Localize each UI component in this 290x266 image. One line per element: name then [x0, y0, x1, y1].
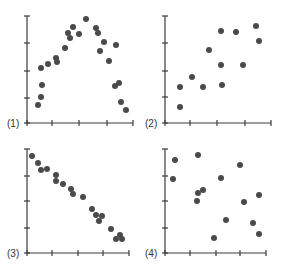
data-point	[60, 181, 66, 187]
panel-label: (3)	[7, 248, 19, 259]
data-point	[62, 45, 68, 51]
data-point	[97, 48, 103, 54]
data-point	[54, 59, 60, 65]
data-point	[250, 220, 256, 226]
data-point	[119, 236, 125, 242]
data-point	[108, 226, 114, 232]
scatter-panel-4: (4)	[145, 149, 266, 259]
data-point	[218, 28, 224, 34]
data-point	[223, 217, 229, 223]
data-point	[113, 42, 119, 48]
data-point	[256, 231, 262, 237]
data-point	[67, 35, 73, 41]
data-point	[44, 166, 50, 172]
data-point	[116, 80, 122, 86]
data-point	[241, 199, 247, 205]
data-point	[177, 104, 183, 110]
data-point	[106, 58, 112, 64]
data-point	[189, 74, 195, 80]
data-point	[172, 157, 178, 163]
scatter-plot-grid: (1) (2) (3) (4)	[0, 0, 290, 266]
data-point	[70, 24, 76, 30]
data-point	[80, 194, 86, 200]
data-point	[76, 31, 82, 37]
scatter-panel-3: (3)	[7, 149, 129, 259]
data-point	[170, 176, 176, 182]
data-point	[123, 107, 129, 113]
data-point	[70, 191, 76, 197]
scatter-panel-2: (2)	[145, 16, 271, 129]
data-point	[177, 84, 183, 90]
data-point	[35, 102, 41, 108]
data-point	[38, 65, 44, 71]
data-point	[29, 153, 35, 159]
data-point	[96, 218, 102, 224]
data-point	[194, 198, 200, 204]
panel-label: (4)	[145, 248, 157, 259]
data-point	[237, 162, 243, 168]
scatter-panel-1: (1)	[7, 16, 133, 129]
data-point	[38, 167, 44, 173]
data-point	[195, 152, 201, 158]
data-point	[45, 61, 51, 67]
data-point	[38, 94, 44, 100]
data-point	[83, 16, 89, 22]
data-point	[53, 178, 59, 184]
data-point	[253, 23, 259, 29]
data-point	[206, 47, 212, 53]
data-point	[35, 160, 41, 166]
data-point	[93, 212, 99, 218]
data-point	[95, 30, 101, 36]
data-point	[89, 206, 95, 212]
data-point	[256, 192, 262, 198]
data-point	[256, 38, 262, 44]
data-point	[218, 62, 224, 68]
data-point	[240, 62, 246, 68]
data-point	[218, 175, 224, 181]
data-point	[211, 235, 217, 241]
data-point	[39, 82, 45, 88]
panel-label: (2)	[145, 118, 157, 129]
data-point	[101, 39, 107, 45]
data-point	[219, 82, 225, 88]
data-point	[53, 172, 59, 178]
data-point	[200, 84, 206, 90]
data-point	[195, 190, 201, 196]
data-point	[118, 99, 124, 105]
data-point	[200, 187, 206, 193]
panel-label: (1)	[7, 118, 19, 129]
data-point	[233, 29, 239, 35]
data-point	[99, 213, 105, 219]
